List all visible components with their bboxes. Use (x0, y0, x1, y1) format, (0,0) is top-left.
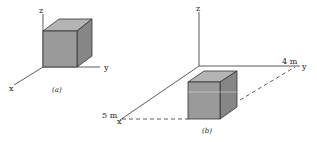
x-label-a: x (9, 84, 14, 93)
dashed-y-extent (240, 67, 295, 100)
x-dimension-label: 5 m (102, 111, 118, 120)
caption-b: (b) (202, 127, 212, 135)
diagram-canvas: z y x (a) z y x 4 m 5 m (b) (0, 0, 317, 142)
z-label-b: z (196, 4, 200, 13)
cube-front-face-b (188, 82, 220, 119)
x-axis-a (14, 67, 43, 85)
cube-front-face-a (43, 31, 77, 67)
z-label-a: z (39, 6, 43, 15)
y-dimension-label: 4 m (282, 57, 298, 66)
y-label-b: y (301, 62, 307, 71)
figure-a: z y x (a) (9, 6, 109, 94)
x-label-b: x (117, 117, 122, 126)
caption-a: (a) (52, 86, 62, 94)
y-label-a: y (103, 63, 109, 72)
figure-b: z y x 4 m 5 m (b) (102, 4, 307, 135)
x-axis-b (120, 66, 199, 120)
